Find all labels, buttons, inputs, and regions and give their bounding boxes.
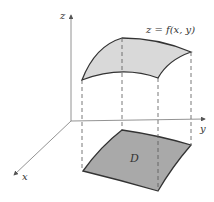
y-axis-label: y [199, 123, 206, 134]
surface [82, 38, 191, 80]
z-axis-label: z [59, 10, 66, 21]
y-axis [71, 119, 205, 121]
x-axis [14, 121, 71, 175]
region-label: D [129, 152, 139, 165]
x-axis-label: x [22, 171, 28, 182]
surface-label: z = f(x, y) [145, 24, 195, 35]
double-integral-diagram: z y x z = f(x, y) D [0, 0, 214, 202]
